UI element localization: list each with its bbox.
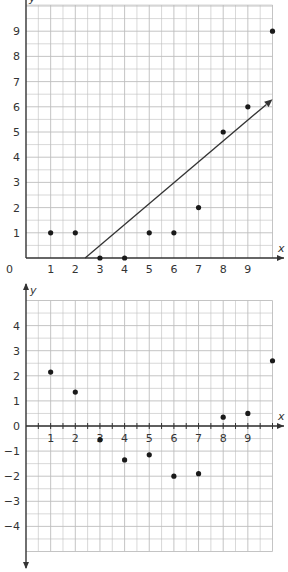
data-point xyxy=(97,437,102,442)
x-tick-label: 2 xyxy=(72,432,79,445)
data-point xyxy=(122,457,127,462)
y-axis-down-arrow-icon xyxy=(23,562,29,569)
tick-labels: xy0123456789123456789 xyxy=(6,0,285,276)
x-tick-label: 8 xyxy=(220,263,227,276)
x-tick-label: 8 xyxy=(220,432,227,445)
y-tick-label: −1 xyxy=(4,445,20,458)
data-point xyxy=(196,205,201,210)
y-tick-label: 6 xyxy=(13,101,20,114)
x-tick-label: 5 xyxy=(146,432,153,445)
y-tick-label: 9 xyxy=(13,25,20,38)
y-tick-label: 4 xyxy=(13,320,20,333)
data-point xyxy=(245,104,250,109)
trend-line xyxy=(85,99,272,258)
x-tick-label: 7 xyxy=(195,432,202,445)
x-axis-arrow-icon xyxy=(277,423,284,429)
grid xyxy=(26,5,273,258)
y-tick-label: 7 xyxy=(13,76,20,89)
data-point xyxy=(147,452,152,457)
y-tick-label: 3 xyxy=(13,345,20,358)
data-point xyxy=(245,411,250,416)
data-point xyxy=(48,369,53,374)
y-tick-label: 4 xyxy=(13,151,20,164)
x-tick-label: 5 xyxy=(146,263,153,276)
x-tick-label: 9 xyxy=(244,263,251,276)
data-point xyxy=(48,230,53,235)
x-tick-label: 2 xyxy=(72,263,79,276)
data-point xyxy=(270,358,275,363)
data-point xyxy=(221,129,226,134)
data-point xyxy=(122,255,127,260)
data-point xyxy=(221,415,226,420)
y-tick-label: 8 xyxy=(13,50,20,63)
x-tick-label: 6 xyxy=(170,432,177,445)
data-point xyxy=(147,230,152,235)
data-point xyxy=(97,255,102,260)
x-tick-label: 9 xyxy=(244,432,251,445)
scatter-plot-1: xy0123456789123456789 xyxy=(0,0,288,280)
x-tick-label: 3 xyxy=(96,263,103,276)
x-tick-label: 0 xyxy=(6,263,13,276)
y-tick-label: 2 xyxy=(13,370,20,383)
y-tick-label: −2 xyxy=(4,470,20,483)
x-tick-label: 1 xyxy=(47,432,54,445)
y-tick-label: 1 xyxy=(13,227,20,240)
data-point xyxy=(171,230,176,235)
data-point xyxy=(73,230,78,235)
x-tick-label: 4 xyxy=(121,263,128,276)
y-tick-label: 2 xyxy=(13,202,20,215)
x-tick-label: 6 xyxy=(170,263,177,276)
data-point xyxy=(270,29,275,34)
y-tick-label: 5 xyxy=(13,126,20,139)
y-tick-label: 1 xyxy=(13,395,20,408)
y-tick-label: −4 xyxy=(4,520,20,533)
y-tick-label: 3 xyxy=(13,176,20,189)
data-point xyxy=(196,471,201,476)
x-tick-label: 7 xyxy=(195,263,202,276)
x-tick-label: 4 xyxy=(121,432,128,445)
scatter-plot-2: xy12345678943210−1−2−3−4 xyxy=(0,280,288,572)
data-point xyxy=(171,474,176,479)
axes xyxy=(26,0,284,261)
y-tick-label: 0 xyxy=(13,420,20,433)
tick-labels: xy12345678943210−1−2−3−4 xyxy=(4,284,285,533)
y-axis-up-arrow-icon xyxy=(23,283,29,290)
x-axis-label: x xyxy=(277,242,285,255)
x-axis-arrow-icon xyxy=(277,255,284,261)
x-tick-label: 1 xyxy=(47,263,54,276)
y-tick-label: −3 xyxy=(4,495,20,508)
data-point xyxy=(73,390,78,395)
y-axis-label: y xyxy=(29,284,37,297)
y-axis-label: y xyxy=(28,0,36,5)
x-axis-label: x xyxy=(277,410,285,423)
